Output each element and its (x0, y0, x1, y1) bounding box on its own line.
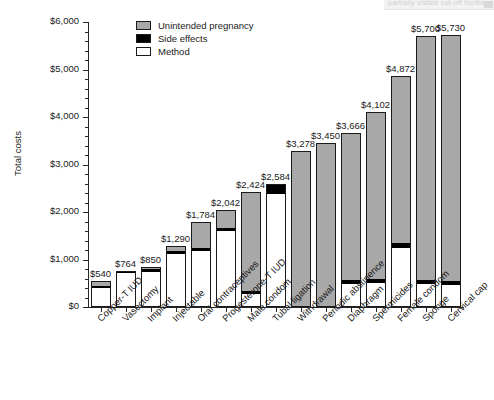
legend-swatch-icon (136, 34, 151, 43)
y-tick-mark (85, 155, 88, 156)
y-tick-label: $6,000 (50, 15, 79, 26)
y-tick-mark (85, 203, 88, 204)
legend-swatch-icon (136, 47, 151, 56)
y-tick-mark (83, 70, 88, 71)
y-tick-label: $1,000 (50, 253, 79, 264)
y-tick-mark (85, 193, 88, 194)
chart-figure: Total costs $0$1,000$2,000$3,000$4,000$5… (0, 0, 494, 400)
bar-total-label: $850 (132, 254, 170, 265)
y-tick-mark (85, 250, 88, 251)
legend-item-unintended-pregnancy[interactable]: Unintended pregnancy (136, 19, 254, 31)
y-tick-mark (85, 288, 88, 289)
chart-legend: Unintended pregnancySide effectsMethod (136, 19, 254, 58)
y-tick-mark (85, 136, 88, 137)
y-tick-mark (85, 79, 88, 80)
y-tick-label: $5,000 (50, 63, 79, 74)
y-tick-mark (85, 231, 88, 232)
bar-total-label: $1,784 (182, 209, 220, 220)
y-tick-mark (85, 298, 88, 299)
y-tick-mark (85, 51, 88, 52)
bar-total-label: $5,730 (432, 22, 470, 33)
segment-unintended-pregnancy (367, 113, 385, 279)
legend-item-side-effects[interactable]: Side effects (136, 32, 254, 44)
y-tick-mark (85, 60, 88, 61)
bar-total-label: $540 (82, 268, 120, 279)
bar-periodic-abstinence[interactable] (316, 143, 336, 307)
legend-label: Side effects (158, 33, 207, 44)
bar-total-label: $2,584 (257, 171, 295, 182)
y-tick-mark (83, 22, 88, 23)
y-tick-mark (83, 212, 88, 213)
bar-female-condom[interactable] (391, 76, 411, 307)
segment-unintended-pregnancy (417, 37, 435, 279)
bar-cervical-cap[interactable] (441, 35, 461, 307)
y-tick-mark (85, 98, 88, 99)
bar-total-label: $3,666 (332, 120, 370, 131)
y-tick-mark (85, 127, 88, 128)
bar-sponge[interactable] (416, 36, 436, 307)
y-tick-mark (85, 174, 88, 175)
y-tick-mark (85, 41, 88, 42)
y-axis-title: Total costs (12, 114, 23, 194)
bar-total-label: $1,290 (157, 233, 195, 244)
y-tick-label: $2,000 (50, 205, 79, 216)
y-tick-mark (85, 32, 88, 33)
y-tick-mark (83, 117, 88, 118)
segment-unintended-pregnancy (342, 134, 360, 280)
segment-unintended-pregnancy (442, 36, 460, 281)
y-tick-mark (85, 89, 88, 90)
legend-swatch-icon (136, 21, 151, 30)
y-tick-mark (83, 307, 88, 308)
y-tick-mark (83, 165, 88, 166)
bar-total-label: $4,872 (382, 63, 420, 74)
bar-total-label: $4,102 (357, 99, 395, 110)
y-tick-mark (85, 146, 88, 147)
legend-item-method[interactable]: Method (136, 45, 254, 57)
legend-label: Unintended pregnancy (158, 20, 254, 31)
y-tick-mark (83, 260, 88, 261)
y-tick-mark (85, 108, 88, 109)
y-tick-mark (85, 184, 88, 185)
y-tick-label: $3,000 (50, 158, 79, 169)
bar-total-label: $2,042 (207, 197, 245, 208)
y-tick-label: $0 (68, 300, 79, 311)
y-tick-mark (85, 222, 88, 223)
segment-unintended-pregnancy (317, 144, 335, 306)
bar-total-label: $3,450 (307, 130, 345, 141)
plot-area: $0$1,000$2,000$3,000$4,000$5,000$6,000 $… (88, 22, 463, 307)
y-tick-label: $4,000 (50, 110, 79, 121)
y-tick-mark (85, 241, 88, 242)
legend-label: Method (158, 46, 190, 57)
